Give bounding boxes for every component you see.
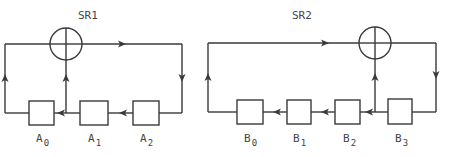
cell-label-a2: A2 bbox=[140, 132, 153, 148]
shift-register-sr2: SR2 B0 B1 bbox=[205, 9, 440, 148]
cell-label-b1: B1 bbox=[293, 132, 306, 148]
cell-label-b0: B0 bbox=[244, 132, 257, 148]
cell-label-a1: A1 bbox=[88, 132, 101, 148]
sr1-title: SR1 bbox=[78, 9, 98, 22]
sr2-title: SR2 bbox=[292, 9, 312, 22]
register-cell-b1 bbox=[287, 100, 311, 124]
register-cell-b3 bbox=[388, 99, 412, 124]
diagram-canvas: SR1 A0 A1 A2 bbox=[0, 0, 461, 157]
cell-label-b2: B2 bbox=[343, 132, 356, 148]
shift-register-sr1: SR1 A0 A1 A2 bbox=[2, 9, 186, 148]
register-cell-a2 bbox=[133, 101, 159, 125]
sr2-xor-icon bbox=[359, 27, 391, 59]
cell-label-a0: A0 bbox=[36, 132, 49, 148]
register-cell-a0 bbox=[29, 101, 54, 125]
cell-label-b3: B3 bbox=[395, 132, 408, 148]
register-cell-b0 bbox=[237, 100, 263, 124]
sr1-xor-icon bbox=[50, 28, 82, 60]
register-cell-b2 bbox=[335, 100, 360, 124]
register-cell-a1 bbox=[80, 101, 108, 125]
